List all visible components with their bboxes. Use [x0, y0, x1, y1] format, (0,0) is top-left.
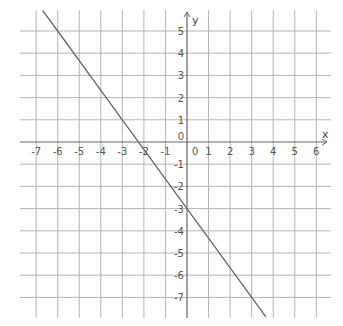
y-tick-label: -6 — [174, 270, 184, 281]
x-tick-label: -3 — [117, 146, 127, 157]
x-tick-label: 6 — [313, 146, 319, 157]
y-tick-label: -7 — [174, 292, 184, 303]
y-tick-label: -1 — [174, 159, 184, 170]
y-tick-label: 5 — [178, 26, 184, 37]
y-tick-label: -2 — [174, 181, 184, 192]
x-tick-label: -5 — [74, 146, 84, 157]
x-tick-label: 2 — [227, 146, 233, 157]
x-tick-label: -7 — [31, 146, 41, 157]
x-tick-label: 4 — [270, 146, 276, 157]
y-tick-label: 2 — [178, 93, 184, 104]
x-tick-label: 5 — [292, 146, 298, 157]
y-tick-label: -3 — [174, 204, 184, 215]
y-tick-label: 4 — [178, 48, 184, 59]
tick-labels: xy-7-6-5-4-3-2-10123456543210-1-2-3-4-5-… — [31, 14, 329, 303]
data-line — [43, 10, 266, 317]
x-axis-label: x — [322, 128, 329, 141]
y-tick-label: 0 — [178, 131, 184, 142]
x-tick-label: 3 — [248, 146, 254, 157]
y-axis-label: y — [192, 14, 199, 27]
x-tick-label: -4 — [96, 146, 106, 157]
coordinate-plane: xy-7-6-5-4-3-2-10123456543210-1-2-3-4-5-… — [0, 0, 343, 326]
plotted-line — [43, 10, 266, 317]
y-tick-label: -4 — [174, 226, 184, 237]
x-tick-label: 1 — [205, 146, 211, 157]
x-tick-label: -2 — [139, 146, 149, 157]
y-tick-label: 1 — [178, 115, 184, 126]
x-tick-label: -1 — [160, 146, 170, 157]
x-tick-label: -6 — [53, 146, 63, 157]
y-tick-label: 3 — [178, 70, 184, 81]
y-tick-label: -5 — [174, 248, 184, 259]
x-tick-label: 0 — [192, 146, 198, 157]
